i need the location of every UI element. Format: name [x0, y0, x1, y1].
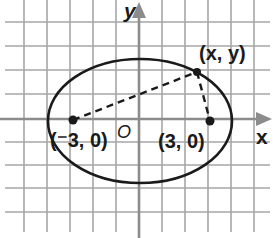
right-focus-point [206, 117, 215, 126]
grid [5, 0, 270, 232]
ellipse-point [193, 68, 201, 76]
coordinate-diagram [0, 0, 278, 238]
left-focus-point [69, 116, 78, 125]
point-label: (x, y) [199, 43, 246, 63]
right-focus-label: (3, 0) [158, 131, 205, 151]
y-axis-label: y [124, 0, 136, 21]
x-axis-arrow-icon [256, 112, 272, 126]
left-focus-label: (⁻3, 0) [50, 130, 108, 150]
x-axis-label: x [256, 126, 268, 147]
origin-label: O [117, 123, 131, 141]
